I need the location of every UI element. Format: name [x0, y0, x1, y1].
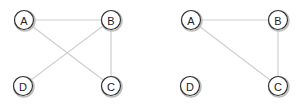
node-label: D	[19, 81, 27, 93]
node-label: B	[107, 15, 114, 27]
node-label: B	[274, 15, 281, 27]
edge-a-c	[191, 20, 278, 86]
node-label: A	[187, 15, 195, 27]
node-c: C	[102, 77, 122, 97]
node-label: C	[274, 81, 282, 93]
node-a: A	[182, 11, 202, 31]
node-label: A	[20, 15, 28, 27]
node-a: A	[15, 11, 35, 31]
node-label: C	[107, 81, 115, 93]
node-d: D	[181, 77, 201, 97]
graph-right: ABDC	[181, 11, 289, 97]
node-b: B	[102, 11, 122, 31]
graph-diagram: ABDCABDC	[0, 0, 303, 106]
node-c: C	[269, 77, 289, 97]
node-d: D	[14, 77, 34, 97]
graph-left: ABDC	[14, 11, 122, 97]
node-label: D	[186, 81, 194, 93]
node-b: B	[269, 11, 289, 31]
